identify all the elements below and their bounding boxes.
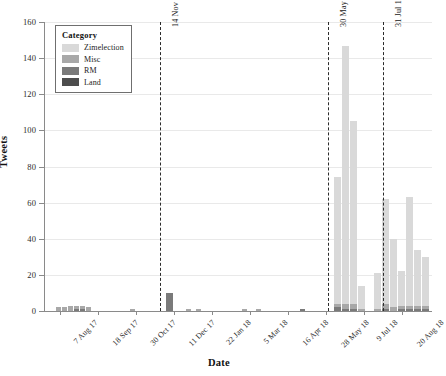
- bar-stack: [414, 250, 421, 311]
- bar-stack: [166, 293, 173, 311]
- bar-stack: [62, 307, 67, 311]
- x-tick-mark: [174, 311, 175, 315]
- annotation-label: 30 May 18: Election announced: [339, 0, 348, 27]
- bar-segment-rm: [422, 309, 429, 311]
- gridline: [44, 22, 432, 23]
- y-axis-title: Tweets: [0, 135, 9, 168]
- bar-segment-misc: [342, 304, 349, 309]
- x-tick-mark: [60, 311, 61, 315]
- y-tick-label: 40: [0, 234, 36, 244]
- gridline: [44, 130, 432, 131]
- annotation-line: [328, 22, 329, 311]
- bar-segment-misc: [74, 306, 79, 310]
- y-tick-mark: [39, 275, 44, 276]
- bar-stack: [334, 177, 341, 311]
- bar-stack: [186, 309, 191, 311]
- y-tick-mark: [39, 22, 44, 23]
- bar-stack: [422, 257, 429, 311]
- bar-segment-rm: [334, 307, 341, 311]
- bar-segment-misc: [414, 306, 421, 310]
- bar-segment-misc: [350, 304, 357, 309]
- legend-title: Category: [62, 30, 126, 40]
- bar-segment-rm: [300, 309, 305, 311]
- y-tick-mark: [39, 167, 44, 168]
- x-tick-mark: [402, 311, 403, 315]
- legend-label: RM: [84, 66, 97, 75]
- y-tick-mark: [39, 94, 44, 95]
- y-tick-label: 120: [0, 89, 36, 99]
- bar-segment-rm: [414, 309, 421, 311]
- bar-stack: [358, 286, 365, 311]
- x-tick-label: 28 May 18: [339, 318, 371, 350]
- bar-segment-misc: [80, 306, 85, 310]
- legend: Category ZimelectionMiscRMLand: [55, 25, 132, 93]
- bar-stack: [68, 306, 73, 311]
- legend-swatch-misc: [62, 55, 79, 63]
- bar-segment-misc: [68, 306, 73, 311]
- x-tick-label: 20 Aug 18: [415, 318, 446, 349]
- bar-segment-misc: [56, 307, 61, 311]
- y-tick-label: 140: [0, 53, 36, 63]
- bar-segment-misc: [398, 306, 405, 310]
- bar-segment-rm: [398, 309, 405, 311]
- legend-item-land[interactable]: Land: [62, 78, 126, 87]
- annotation-label: 31 Jul 18: Election: [394, 0, 403, 27]
- legend-label: Land: [84, 78, 101, 87]
- legend-label: Zimelection: [84, 43, 124, 52]
- bar-stack: [196, 309, 201, 311]
- legend-item-zimelection[interactable]: Zimelection: [62, 43, 126, 52]
- x-axis-line: [44, 311, 432, 312]
- gridline: [44, 167, 432, 168]
- x-tick-mark: [326, 311, 327, 315]
- bar-segment-zimelection: [358, 286, 365, 309]
- bar-segment-rm: [166, 293, 173, 311]
- bar-segment-misc: [196, 309, 201, 311]
- x-tick-label: 11 Dec 17: [187, 318, 217, 348]
- legend-item-misc[interactable]: Misc: [62, 55, 126, 64]
- bar-stack: [56, 307, 61, 311]
- x-tick-label: 16 Apr 18: [301, 318, 331, 348]
- bar-segment-misc: [62, 307, 67, 311]
- legend-swatch-land: [62, 78, 79, 86]
- bar-segment-misc: [256, 309, 261, 311]
- y-tick-mark: [39, 311, 44, 312]
- bar-segment-zimelection: [390, 239, 397, 308]
- bar-segment-misc: [242, 309, 247, 311]
- bar-stack: [242, 309, 247, 311]
- x-tick-label: 18 Sep 17: [111, 318, 141, 348]
- bar-segment-zimelection: [406, 197, 413, 305]
- bar-stack: [374, 273, 381, 311]
- bar-segment-zimelection: [350, 121, 357, 303]
- legend-swatch-rm: [62, 67, 79, 75]
- bar-stack: [342, 45, 349, 311]
- y-axis-line: [44, 22, 45, 311]
- bar-segment-zimelection: [334, 177, 341, 303]
- bar-stack: [256, 309, 261, 311]
- y-tick-mark: [39, 58, 44, 59]
- y-tick-mark: [39, 130, 44, 131]
- x-tick-label: 22 Jan 18: [224, 318, 253, 347]
- gridline: [44, 203, 432, 204]
- bar-segment-misc: [334, 304, 341, 308]
- legend-label: Misc: [84, 55, 100, 64]
- bar-stack: [406, 197, 413, 311]
- annotation-label: 14 Nov 17: Coup: [171, 0, 180, 27]
- y-tick-label: 160: [0, 17, 36, 27]
- legend-item-rm[interactable]: RM: [62, 66, 126, 75]
- x-tick-mark: [212, 311, 213, 315]
- bar-stack: [86, 307, 91, 311]
- bar-segment-misc: [422, 306, 429, 310]
- x-tick-mark: [288, 311, 289, 315]
- gridline: [44, 94, 432, 95]
- bar-segment-rm: [342, 309, 349, 311]
- bar-segment-misc: [390, 307, 397, 311]
- y-tick-label: 20: [0, 270, 36, 280]
- y-tick-mark: [39, 239, 44, 240]
- bar-segment-misc: [86, 307, 91, 311]
- gridline: [44, 239, 432, 240]
- bar-segment-rm: [406, 309, 413, 311]
- bar-stack: [300, 309, 305, 311]
- y-tick-label: 60: [0, 198, 36, 208]
- x-tick-mark: [98, 311, 99, 315]
